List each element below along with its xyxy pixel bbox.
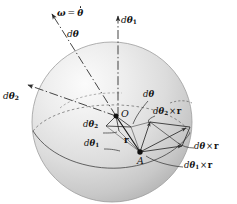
r-symbol: r bbox=[177, 106, 181, 116]
omega-symbol: ω bbox=[57, 8, 66, 18]
dtheta-cross-r-label: dθ×r bbox=[194, 142, 218, 151]
dtheta2-center-label: dθ2 bbox=[83, 120, 98, 130]
theta-dot-symbol: θ bbox=[77, 9, 83, 18]
theta-symbol: θ bbox=[77, 8, 83, 18]
point-A-label: A bbox=[137, 156, 144, 166]
dtheta1-cross-r-label: dθ1×r bbox=[184, 161, 212, 171]
dtheta-upper-label: dθ bbox=[67, 30, 79, 39]
dtheta-center-label: dθ bbox=[143, 90, 154, 99]
equals-sign: = bbox=[66, 8, 78, 18]
omega-equals-thetadot-label: ω=θ bbox=[57, 9, 83, 18]
r-label: r bbox=[124, 136, 129, 145]
dtheta1-top-label: dθ1 bbox=[121, 16, 137, 25]
cross-product-symbol: × bbox=[205, 141, 214, 151]
point-O-label: O bbox=[121, 109, 129, 119]
subscript-1: 1 bbox=[95, 142, 99, 148]
subscript-2: 2 bbox=[94, 123, 98, 129]
cross-product-symbol: × bbox=[168, 106, 177, 116]
cross-product-symbol: × bbox=[199, 160, 208, 170]
subscript-2: 2 bbox=[15, 94, 19, 101]
point-O-marker bbox=[114, 114, 119, 119]
dtheta1-center-label: dθ1 bbox=[84, 139, 99, 149]
sphere-outline bbox=[32, 42, 192, 202]
r-symbol: r bbox=[214, 141, 218, 151]
dtheta2-cross-r-label: dθ2×r bbox=[153, 107, 181, 117]
dtheta2-left-label: dθ2 bbox=[3, 92, 19, 101]
r-symbol: r bbox=[208, 160, 212, 170]
subscript-1: 1 bbox=[133, 18, 137, 25]
diagram-canvas bbox=[0, 0, 237, 204]
angular-velocity-diagram: ω=θ dθ dθ1 dθ2 O dθ dθ2 dθ1 r A dθ2×r dθ… bbox=[0, 0, 237, 204]
theta-symbol: θ bbox=[73, 29, 79, 39]
point-A-marker bbox=[137, 149, 142, 154]
theta-symbol: θ bbox=[148, 89, 154, 99]
sphere bbox=[32, 42, 192, 202]
